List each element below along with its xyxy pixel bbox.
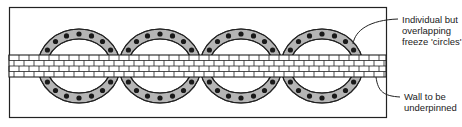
label-line: underpinned xyxy=(404,102,457,113)
freeze-pipe-icon xyxy=(207,79,212,84)
freeze-pipe-icon xyxy=(64,94,69,99)
freeze-pipe-icon xyxy=(76,95,81,100)
freeze-pipe-icon xyxy=(262,39,267,44)
freeze-pipe-icon xyxy=(157,95,162,100)
freeze-pipe-icon xyxy=(319,95,324,100)
freeze-pipe-icon xyxy=(157,31,162,36)
freeze-pipe-icon xyxy=(296,88,301,93)
freeze-pipe-icon xyxy=(238,95,243,100)
freeze-pipe-icon xyxy=(251,94,256,99)
freeze-pipe-icon xyxy=(351,79,356,84)
freeze-pipe-icon xyxy=(238,31,243,36)
freeze-pipe-icon xyxy=(343,39,348,44)
label-line: Individual but xyxy=(402,14,462,25)
freeze-pipe-icon xyxy=(53,39,58,44)
freeze-pipe-icon xyxy=(226,94,231,99)
freeze-pipe-icon xyxy=(332,33,337,38)
label-line: overlapping xyxy=(402,25,462,36)
freeze-pipe-icon xyxy=(45,47,50,52)
freeze-pipe-icon xyxy=(45,79,50,84)
freeze-pipe-icon xyxy=(351,47,356,52)
freeze-circle-diagram xyxy=(0,0,462,127)
freeze-pipe-icon xyxy=(134,88,139,93)
freeze-pipe-icon xyxy=(332,94,337,99)
freeze-pipe-icon xyxy=(262,88,267,93)
wall-to-be-underpinned xyxy=(9,55,386,77)
freeze-pipe-icon xyxy=(319,31,324,36)
freeze-pipe-icon xyxy=(226,33,231,38)
freeze-pipe-icon xyxy=(170,33,175,38)
freeze-pipe-icon xyxy=(100,39,105,44)
label-line: Wall to be xyxy=(404,91,457,102)
freeze-pipe-icon xyxy=(145,33,150,38)
freeze-pipe-icon xyxy=(215,88,220,93)
freeze-pipe-icon xyxy=(251,33,256,38)
freeze-pipe-icon xyxy=(64,33,69,38)
freeze-pipe-icon xyxy=(296,39,301,44)
freeze-pipe-icon xyxy=(189,79,194,84)
freeze-pipe-icon xyxy=(89,33,94,38)
freeze-pipe-icon xyxy=(145,94,150,99)
freeze-pipe-icon xyxy=(270,79,275,84)
freeze-pipe-icon xyxy=(108,47,113,52)
freeze-pipe-icon xyxy=(89,94,94,99)
leader-line-wall xyxy=(376,77,400,97)
freeze-pipe-icon xyxy=(288,79,293,84)
freeze-pipe-icon xyxy=(307,94,312,99)
freeze-pipe-icon xyxy=(270,47,275,52)
freeze-pipe-icon xyxy=(170,94,175,99)
freeze-pipe-icon xyxy=(207,47,212,52)
freeze-pipe-icon xyxy=(288,47,293,52)
freeze-pipe-icon xyxy=(76,31,81,36)
freeze-pipe-icon xyxy=(181,39,186,44)
freeze-pipe-icon xyxy=(343,88,348,93)
freeze-pipe-icon xyxy=(126,47,131,52)
freeze-pipe-icon xyxy=(307,33,312,38)
freeze-pipe-icon xyxy=(215,39,220,44)
leader-line-circles xyxy=(353,19,398,44)
freeze-pipe-icon xyxy=(100,88,105,93)
freeze-pipe-icon xyxy=(189,47,194,52)
label-line: freeze 'circles' xyxy=(402,36,462,47)
label-wall: Wall to be underpinned xyxy=(404,91,457,113)
freeze-pipe-icon xyxy=(181,88,186,93)
freeze-pipe-icon xyxy=(53,88,58,93)
freeze-pipe-icon xyxy=(108,79,113,84)
freeze-pipe-icon xyxy=(134,39,139,44)
freeze-pipe-icon xyxy=(126,79,131,84)
label-freeze-circles: Individual but overlapping freeze 'circl… xyxy=(402,14,462,47)
